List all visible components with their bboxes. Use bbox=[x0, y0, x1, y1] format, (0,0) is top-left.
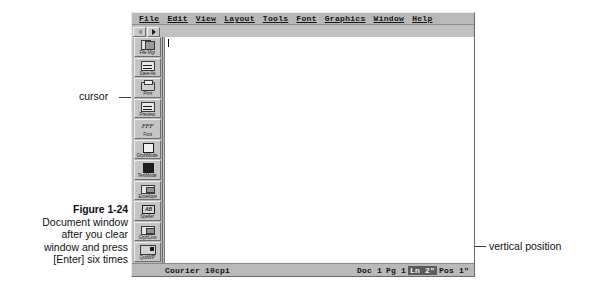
button-bar: File Mgr Save As Print Preview FFF Font … bbox=[133, 37, 163, 263]
button-speller-label: Speller bbox=[141, 214, 154, 220]
menu-item-layout-label: Layout bbox=[224, 14, 255, 23]
menu-item-tools[interactable]: Tools bbox=[259, 13, 293, 24]
button-graphics-mode-label: GrphMode bbox=[137, 152, 158, 158]
button-speller[interactable]: AB Speller bbox=[134, 201, 161, 221]
button-preview[interactable]: Preview bbox=[134, 99, 161, 119]
menu-bar: File Edit View Layout Tools Font Graphic… bbox=[132, 13, 474, 25]
graphics-mode-icon bbox=[140, 142, 155, 152]
menu-item-font-label: Font bbox=[296, 14, 316, 23]
figure-caption-line: window and press bbox=[8, 241, 128, 254]
file-manager-icon bbox=[140, 39, 155, 49]
button-save-as[interactable]: Save As bbox=[134, 58, 161, 78]
figure-caption: Figure 1-24 Document window after you cl… bbox=[8, 203, 128, 266]
button-quit[interactable]: QuitWP bbox=[134, 242, 161, 262]
button-save-as-label: Save As bbox=[139, 70, 155, 76]
button-print[interactable]: Print bbox=[134, 78, 161, 98]
speller-icon: AB bbox=[140, 203, 155, 213]
menu-item-layout[interactable]: Layout bbox=[220, 13, 259, 24]
menu-item-help-label: Help bbox=[412, 14, 432, 23]
menu-item-view-label: View bbox=[196, 14, 216, 23]
button-font[interactable]: FFF Font bbox=[134, 119, 161, 139]
figure-caption-line: after you clear bbox=[8, 228, 128, 241]
menu-item-help[interactable]: Help bbox=[408, 13, 436, 24]
annotation-cursor-label: cursor bbox=[79, 90, 108, 102]
quit-icon bbox=[140, 244, 155, 254]
application-window: File Edit View Layout Tools Font Graphic… bbox=[131, 12, 475, 277]
figure-caption-line: [Enter] six times bbox=[8, 253, 128, 266]
menu-item-tools-label: Tools bbox=[263, 14, 289, 23]
status-bar: Courier 10cpi Doc 1 Pg 1 Ln 2" Pos 1" bbox=[132, 263, 474, 276]
button-font-label: Font bbox=[143, 131, 152, 137]
print-preview-icon bbox=[140, 101, 155, 111]
chevron-left-icon bbox=[138, 29, 142, 35]
text-insertion-cursor bbox=[168, 39, 169, 47]
figure-caption-line: Document window bbox=[8, 216, 128, 229]
text-mode-icon bbox=[140, 162, 155, 172]
button-envelope-label: Envelope bbox=[138, 193, 156, 199]
printer-icon bbox=[140, 80, 155, 90]
buttonbar-scroll-controls bbox=[133, 26, 163, 37]
menu-item-edit[interactable]: Edit bbox=[163, 13, 191, 24]
document-canvas[interactable] bbox=[164, 37, 474, 263]
menu-item-window-label: Window bbox=[374, 14, 405, 23]
buttonbar-prev-button[interactable] bbox=[133, 27, 146, 37]
button-graphic-line-label: GrphLine bbox=[138, 234, 156, 240]
button-envelope[interactable]: Envelope bbox=[134, 181, 161, 201]
status-font: Courier 10cpi bbox=[165, 266, 230, 275]
button-file-mgr[interactable]: File Mgr bbox=[134, 37, 161, 57]
font-icon: FFF bbox=[140, 121, 155, 131]
menu-item-window[interactable]: Window bbox=[370, 13, 409, 24]
button-quit-label: QuitWP bbox=[140, 255, 155, 261]
graphic-line-icon bbox=[140, 224, 155, 234]
menu-item-font[interactable]: Font bbox=[292, 13, 320, 24]
figure-number: Figure 1-24 bbox=[8, 203, 128, 216]
button-file-mgr-label: File Mgr bbox=[140, 49, 156, 55]
menu-item-view[interactable]: View bbox=[192, 13, 220, 24]
status-doc: Doc 1 bbox=[355, 266, 384, 275]
envelope-icon bbox=[140, 183, 155, 193]
button-print-label: Print bbox=[143, 90, 152, 96]
status-line: Ln 2" bbox=[408, 266, 437, 275]
button-graphic-line[interactable]: GrphLine bbox=[134, 222, 161, 242]
buttonbar-next-button[interactable] bbox=[147, 27, 160, 37]
button-graphics-mode[interactable]: GrphMode bbox=[134, 140, 161, 160]
status-pos: Pos 1" bbox=[437, 266, 471, 275]
button-text-mode-label: TextMode bbox=[138, 172, 157, 178]
menu-item-file[interactable]: File bbox=[135, 13, 163, 24]
menu-item-file-label: File bbox=[139, 14, 159, 23]
button-preview-label: Preview bbox=[140, 111, 156, 117]
chevron-right-icon bbox=[152, 29, 156, 35]
menu-item-graphics-label: Graphics bbox=[325, 14, 366, 23]
status-page: Pg 1 bbox=[384, 266, 408, 275]
annotation-vertical-position-label: vertical position bbox=[489, 240, 561, 252]
menu-item-graphics[interactable]: Graphics bbox=[321, 13, 370, 24]
save-as-icon bbox=[140, 60, 155, 70]
button-text-mode[interactable]: TextMode bbox=[134, 160, 161, 180]
menu-item-edit-label: Edit bbox=[167, 14, 187, 23]
status-position-group: Doc 1 Pg 1 Ln 2" Pos 1" bbox=[355, 266, 471, 275]
